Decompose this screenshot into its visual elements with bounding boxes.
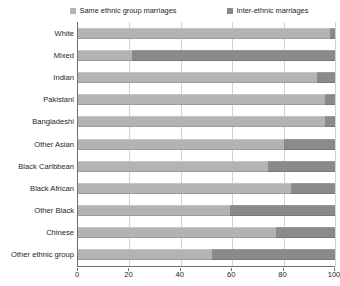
y-axis-tick-label: Chinese [2, 228, 74, 237]
x-axis-tick-label: 0 [75, 270, 79, 279]
legend-label: Same ethnic group marriages [80, 6, 177, 16]
bar-segment-same-ethnic[interactable] [78, 50, 132, 61]
bar-segment-same-ethnic[interactable] [78, 139, 284, 150]
y-axis-tick-label: Other Asian [2, 140, 74, 149]
x-axis-tick-label: 100 [328, 270, 340, 279]
bar-row[interactable] [78, 72, 335, 83]
bar-segment-inter-ethnic[interactable] [325, 94, 335, 105]
bar-segment-inter-ethnic[interactable] [212, 249, 335, 260]
bar-segment-same-ethnic[interactable] [78, 249, 212, 260]
y-axis-tick-label: Black African [2, 184, 74, 193]
bar-segment-inter-ethnic[interactable] [276, 227, 335, 238]
bar-segment-same-ethnic[interactable] [78, 116, 325, 127]
bar-row[interactable] [78, 94, 335, 105]
y-axis-labels: WhiteMixedIndianPakistaniBangladeshiOthe… [0, 22, 74, 266]
bar-row[interactable] [78, 50, 335, 61]
bar-segment-same-ethnic[interactable] [78, 94, 325, 105]
y-axis-tick-label: Mixed [2, 51, 74, 60]
bar-row[interactable] [78, 28, 335, 39]
legend-label: Inter-ethnic marriages [237, 6, 309, 16]
bar-segment-inter-ethnic[interactable] [291, 183, 335, 194]
bar-segment-inter-ethnic[interactable] [325, 116, 335, 127]
bar-row[interactable] [78, 249, 335, 260]
y-axis-tick-label: Bangladeshi [2, 117, 74, 126]
bar-segment-same-ethnic[interactable] [78, 183, 291, 194]
y-axis-tick-label: Other Black [2, 206, 74, 215]
bar-row[interactable] [78, 227, 335, 238]
x-axis-tick-label: 60 [227, 270, 235, 279]
y-axis-tick-label: Black Caribbean [2, 162, 74, 171]
gridline [335, 22, 336, 266]
bar-segment-inter-ethnic[interactable] [317, 72, 335, 83]
x-axis-tick-label: 40 [176, 270, 184, 279]
y-axis-tick-label: White [2, 29, 74, 38]
bar-segment-inter-ethnic[interactable] [132, 50, 335, 61]
bar-row[interactable] [78, 183, 335, 194]
bar-segment-inter-ethnic[interactable] [268, 161, 335, 172]
legend-item-inter-ethnic: Inter-ethnic marriages [227, 6, 308, 16]
x-axis-labels: 020406080100 [0, 268, 335, 282]
plot-area [77, 22, 335, 267]
bar-segment-inter-ethnic[interactable] [230, 205, 335, 216]
x-axis-tick-label: 80 [278, 270, 286, 279]
y-axis-tick-label: Pakistani [2, 95, 74, 104]
bar-segment-same-ethnic[interactable] [78, 227, 276, 238]
bar-segment-same-ethnic[interactable] [78, 161, 268, 172]
bar-segment-same-ethnic[interactable] [78, 72, 317, 83]
bar-segment-same-ethnic[interactable] [78, 205, 230, 216]
legend-item-same-ethnic-group: Same ethnic group marriages [70, 6, 176, 16]
bar-segment-same-ethnic[interactable] [78, 28, 330, 39]
y-axis-tick-label: Indian [2, 73, 74, 82]
bar-row[interactable] [78, 205, 335, 216]
y-axis-tick-label: Other ethnic group [2, 250, 74, 259]
x-axis-tick-label: 20 [124, 270, 132, 279]
legend-swatch-icon [70, 8, 76, 14]
stacked-bar-chart: WhiteMixedIndianPakistaniBangladeshiOthe… [0, 18, 335, 286]
legend-swatch-icon [227, 8, 233, 14]
bar-row[interactable] [78, 161, 335, 172]
bar-segment-inter-ethnic[interactable] [284, 139, 335, 150]
bar-segment-inter-ethnic[interactable] [330, 28, 335, 39]
bar-row[interactable] [78, 139, 335, 150]
bar-row[interactable] [78, 116, 335, 127]
